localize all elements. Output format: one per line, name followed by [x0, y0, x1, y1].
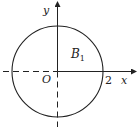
region-label: B1: [70, 47, 85, 63]
y-axis-label: y: [42, 4, 50, 17]
region-label-subscript: 1: [80, 54, 85, 63]
region-label-main: B: [70, 47, 80, 61]
x-axis-label: x: [121, 74, 128, 87]
x-tick-label-2: 2: [105, 74, 112, 87]
diagram-canvas: y x O 2 B1: [0, 0, 139, 128]
origin-label: O: [42, 73, 51, 86]
